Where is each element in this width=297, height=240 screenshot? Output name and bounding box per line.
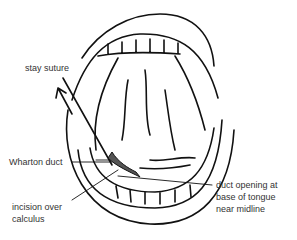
label-duct-opening-line3: near midline xyxy=(216,204,265,215)
label-duct-opening-line2: base of tongue xyxy=(216,192,276,203)
incision-leader xyxy=(72,170,118,200)
upper-teeth xyxy=(98,39,180,56)
duct-opening-leader xyxy=(118,176,212,185)
upper-lip-outer xyxy=(82,14,214,66)
lower-teeth xyxy=(90,128,214,204)
tongue-right-edge xyxy=(175,56,205,130)
label-incision-line1: incision over xyxy=(12,202,62,213)
tongue-left-edge xyxy=(95,58,118,150)
stay-suture-line xyxy=(63,78,112,165)
label-wharton-duct: Wharton duct xyxy=(9,157,63,168)
label-incision-line2: calculus xyxy=(12,214,45,225)
tongue-texture xyxy=(122,70,195,169)
label-stay-suture: stay suture xyxy=(25,63,69,74)
suture-arrow-icon xyxy=(56,88,72,114)
lower-lip-outer xyxy=(67,110,234,224)
label-duct-opening-line1: duct opening at xyxy=(216,180,278,191)
